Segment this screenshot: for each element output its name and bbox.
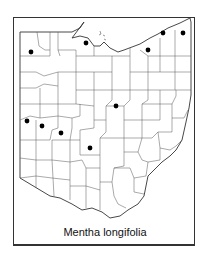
occurrence-dot	[161, 31, 166, 36]
occurrence-dot	[114, 104, 119, 109]
occurrence-dot	[59, 131, 64, 136]
occurrence-dot	[88, 146, 93, 151]
state-outline	[20, 18, 191, 218]
occurrence-dot	[84, 41, 89, 46]
occurrence-dot	[146, 48, 151, 53]
occurrence-dots	[25, 31, 186, 151]
map-caption: Mentha longifolia	[0, 226, 210, 238]
occurrence-dot	[181, 31, 186, 36]
lake-erie-islands	[99, 31, 106, 40]
occurrence-dot	[25, 119, 30, 124]
ohio-county-map	[0, 0, 210, 256]
occurrence-dot	[29, 50, 34, 55]
occurrence-dot	[40, 124, 45, 129]
county-lines	[20, 30, 191, 210]
